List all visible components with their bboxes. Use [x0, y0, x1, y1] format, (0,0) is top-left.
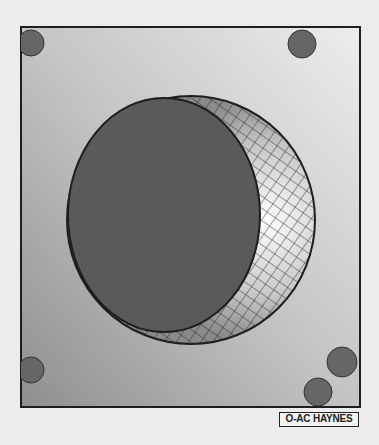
- figure-label: O-AC HAYNES: [279, 412, 359, 427]
- dot-top-left: [18, 30, 44, 56]
- dot-bottom-right-upper: [327, 347, 357, 377]
- dot-bottom-left: [18, 357, 44, 383]
- dot-bottom-right-lower: [304, 378, 332, 406]
- dark-disc: [68, 98, 260, 332]
- diagram-figure: [0, 0, 379, 445]
- dot-top-right: [288, 30, 316, 58]
